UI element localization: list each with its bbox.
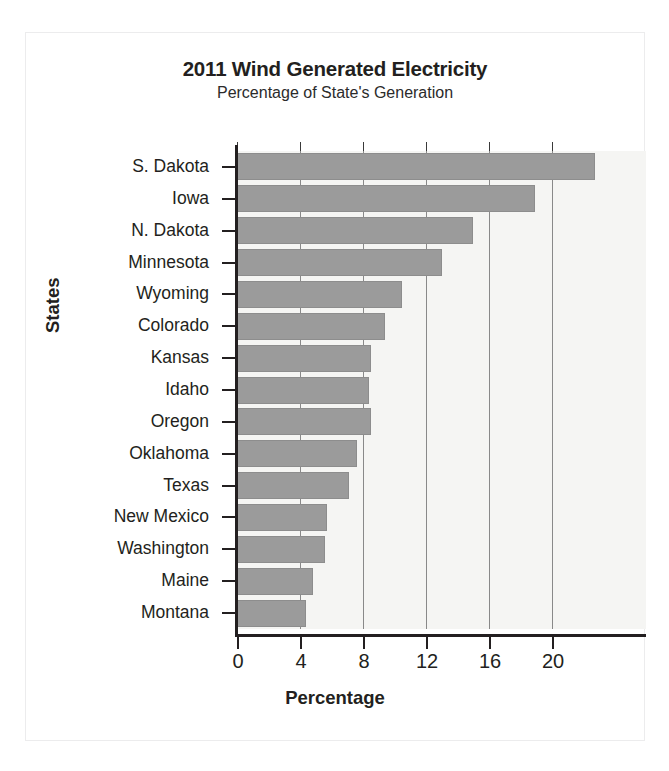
bar	[237, 408, 371, 435]
x-axis-tick	[489, 637, 491, 649]
y-axis-tick-label: New Mexico	[29, 506, 209, 527]
bar	[237, 281, 402, 308]
y-axis-tick-label: N. Dakota	[29, 220, 209, 241]
bar	[237, 440, 357, 467]
y-axis-tick-label: Iowa	[29, 188, 209, 209]
y-axis-tick	[222, 198, 235, 200]
y-axis-tick	[222, 357, 235, 359]
x-axis-tick-label: 16	[470, 650, 510, 673]
bar	[237, 568, 313, 595]
gridline	[489, 151, 490, 629]
y-axis-tick-label: Oklahoma	[29, 443, 209, 464]
x-axis-top-tick	[552, 142, 553, 151]
bar	[237, 217, 473, 244]
x-axis-tick-label: 20	[533, 650, 573, 673]
y-axis-tick	[222, 166, 235, 168]
plot-area	[237, 151, 646, 629]
x-axis-tick	[426, 637, 428, 649]
y-axis-tick	[222, 485, 235, 487]
y-axis-tick-label: Washington	[29, 538, 209, 559]
y-axis-tick	[222, 421, 235, 423]
bar	[237, 377, 369, 404]
bar	[237, 504, 327, 531]
chart-subtitle: Percentage of State's Generation	[26, 84, 644, 102]
gridline	[552, 151, 553, 629]
y-axis-tick-label: S. Dakota	[29, 156, 209, 177]
y-axis-tick-label: Oregon	[29, 411, 209, 432]
y-axis-tick-label: Montana	[29, 602, 209, 623]
bar	[237, 249, 442, 276]
y-axis-tick	[222, 262, 235, 264]
x-axis-tick	[363, 637, 365, 649]
bar	[237, 345, 371, 372]
x-axis-top-tick	[489, 142, 490, 151]
bar	[237, 153, 595, 180]
y-axis-tick-label: Colorado	[29, 315, 209, 336]
x-axis-tick	[552, 637, 554, 649]
y-axis-tick-label: Idaho	[29, 379, 209, 400]
bar	[237, 185, 535, 212]
y-axis-tick	[222, 516, 235, 518]
bar	[237, 313, 385, 340]
x-axis-top-tick	[363, 142, 364, 151]
y-axis-tick-label: Maine	[29, 570, 209, 591]
x-axis-top-tick	[300, 142, 301, 151]
y-axis-line	[235, 145, 238, 637]
y-axis-tick	[222, 453, 235, 455]
y-axis-tick	[222, 612, 235, 614]
y-axis-tick-label: Wyoming	[29, 283, 209, 304]
y-axis-tick-label: Texas	[29, 475, 209, 496]
y-axis-tick	[222, 230, 235, 232]
x-axis-tick	[237, 637, 239, 649]
x-axis-tick-label: 0	[218, 650, 258, 673]
y-axis-tick	[222, 580, 235, 582]
x-axis-line	[235, 634, 646, 637]
chart-title: 2011 Wind Generated Electricity	[26, 57, 644, 81]
x-axis-tick-label: 12	[407, 650, 447, 673]
x-axis-title: Percentage	[26, 687, 644, 709]
y-axis-tick	[222, 325, 235, 327]
bar	[237, 472, 349, 499]
y-axis-tick	[222, 389, 235, 391]
x-axis-tick-label: 8	[344, 650, 384, 673]
x-axis-top-tick	[426, 142, 427, 151]
chart-figure: 2011 Wind Generated Electricity Percenta…	[25, 32, 645, 741]
x-axis-tick	[300, 637, 302, 649]
y-axis-tick	[222, 548, 235, 550]
y-axis-tick	[222, 293, 235, 295]
bar	[237, 600, 306, 627]
x-axis-tick-label: 4	[281, 650, 321, 673]
y-axis-tick-label: Kansas	[29, 347, 209, 368]
bar	[237, 536, 325, 563]
y-axis-tick-label: Minnesota	[29, 252, 209, 273]
